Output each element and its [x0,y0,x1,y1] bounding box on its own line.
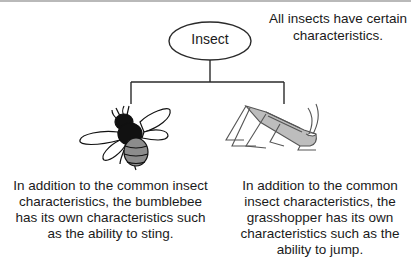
grasshopper-icon [226,104,318,150]
connector-lines [131,60,284,104]
root-node-label: Insect [168,31,252,47]
bumblebee-description: In addition to the common insect charact… [8,178,213,242]
grasshopper-description: In addition to the common insect charact… [225,178,411,258]
root-caption: All insects have certain characteristics… [268,10,408,44]
bumblebee-icon [80,106,170,170]
